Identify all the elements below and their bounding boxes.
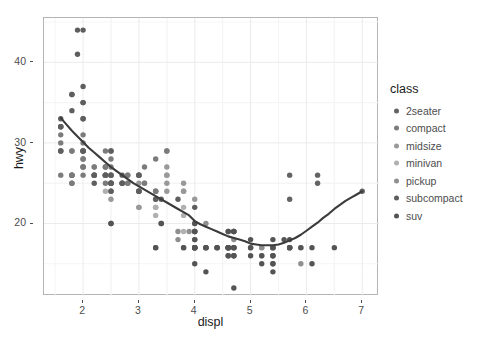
legend-key-dot-icon	[390, 207, 406, 225]
legend-swatch	[394, 178, 399, 183]
legend-swatch	[394, 213, 399, 218]
y-tick-label: 40	[14, 56, 26, 66]
gridlines-minor	[44, 18, 379, 296]
legend-item-label: 2seater	[406, 105, 441, 117]
y-axis-title: hwy	[12, 147, 26, 169]
legend-key-dot-icon	[390, 155, 406, 173]
gridlines-major	[44, 18, 379, 296]
series-midsize	[92, 164, 198, 210]
legend-item-subcompact[interactable]: subcompact	[390, 190, 488, 208]
legend-item-label: compact	[406, 122, 446, 134]
y-tick-label: 30	[14, 137, 26, 147]
legend-item-2seater[interactable]: 2seater	[390, 102, 488, 120]
legend-swatch	[394, 126, 399, 131]
legend-item-suv[interactable]: suv	[390, 207, 488, 225]
legend-item-pickup[interactable]: pickup	[390, 172, 488, 190]
legend-key-dot-icon	[390, 120, 406, 138]
legend: class 2seatercompactmidsizeminivanpickup…	[390, 82, 488, 225]
x-tick-mark	[305, 300, 306, 303]
legend-key-dot-icon	[390, 190, 406, 208]
legend-item-midsize[interactable]: midsize	[390, 137, 488, 155]
legend-swatch	[394, 161, 399, 166]
series-compact	[58, 132, 169, 194]
legend-item-compact[interactable]: compact	[390, 120, 488, 138]
legend-swatch	[394, 196, 399, 201]
y-axis-title-wrap: hwy	[22, 17, 23, 295]
legend-item-label: pickup	[406, 175, 436, 187]
plot-panel	[43, 17, 378, 295]
y-tick-mark	[30, 142, 33, 143]
series-minivan	[103, 189, 198, 243]
legend-key-dot-icon	[390, 137, 406, 155]
y-tick-mark	[30, 61, 33, 62]
legend-item-label: minivan	[406, 157, 442, 169]
x-tick-mark	[194, 300, 195, 303]
legend-swatch	[394, 108, 399, 113]
x-axis-tick-labels: 234567	[43, 300, 378, 314]
legend-item-label: midsize	[406, 140, 442, 152]
y-tick-label: 20	[14, 217, 26, 227]
x-tick-mark	[138, 300, 139, 303]
legend-item-label: suv	[406, 210, 422, 222]
plot-canvas	[44, 18, 379, 296]
legend-items: 2seatercompactmidsizeminivanpickupsubcom…	[390, 102, 488, 225]
y-tick-mark	[30, 223, 33, 224]
legend-key-dot-icon	[390, 172, 406, 190]
legend-item-minivan[interactable]: minivan	[390, 155, 488, 173]
legend-title: class	[390, 82, 488, 96]
x-tick-mark	[250, 300, 251, 303]
chart-root: 203040 hwy 234567 displ class 2seatercom…	[0, 0, 488, 345]
x-tick-mark	[361, 300, 362, 303]
x-axis-title: displ	[43, 315, 378, 329]
legend-swatch	[394, 143, 399, 148]
legend-item-label: subcompact	[406, 192, 463, 204]
x-tick-mark	[82, 300, 83, 303]
legend-key-dot-icon	[390, 102, 406, 120]
